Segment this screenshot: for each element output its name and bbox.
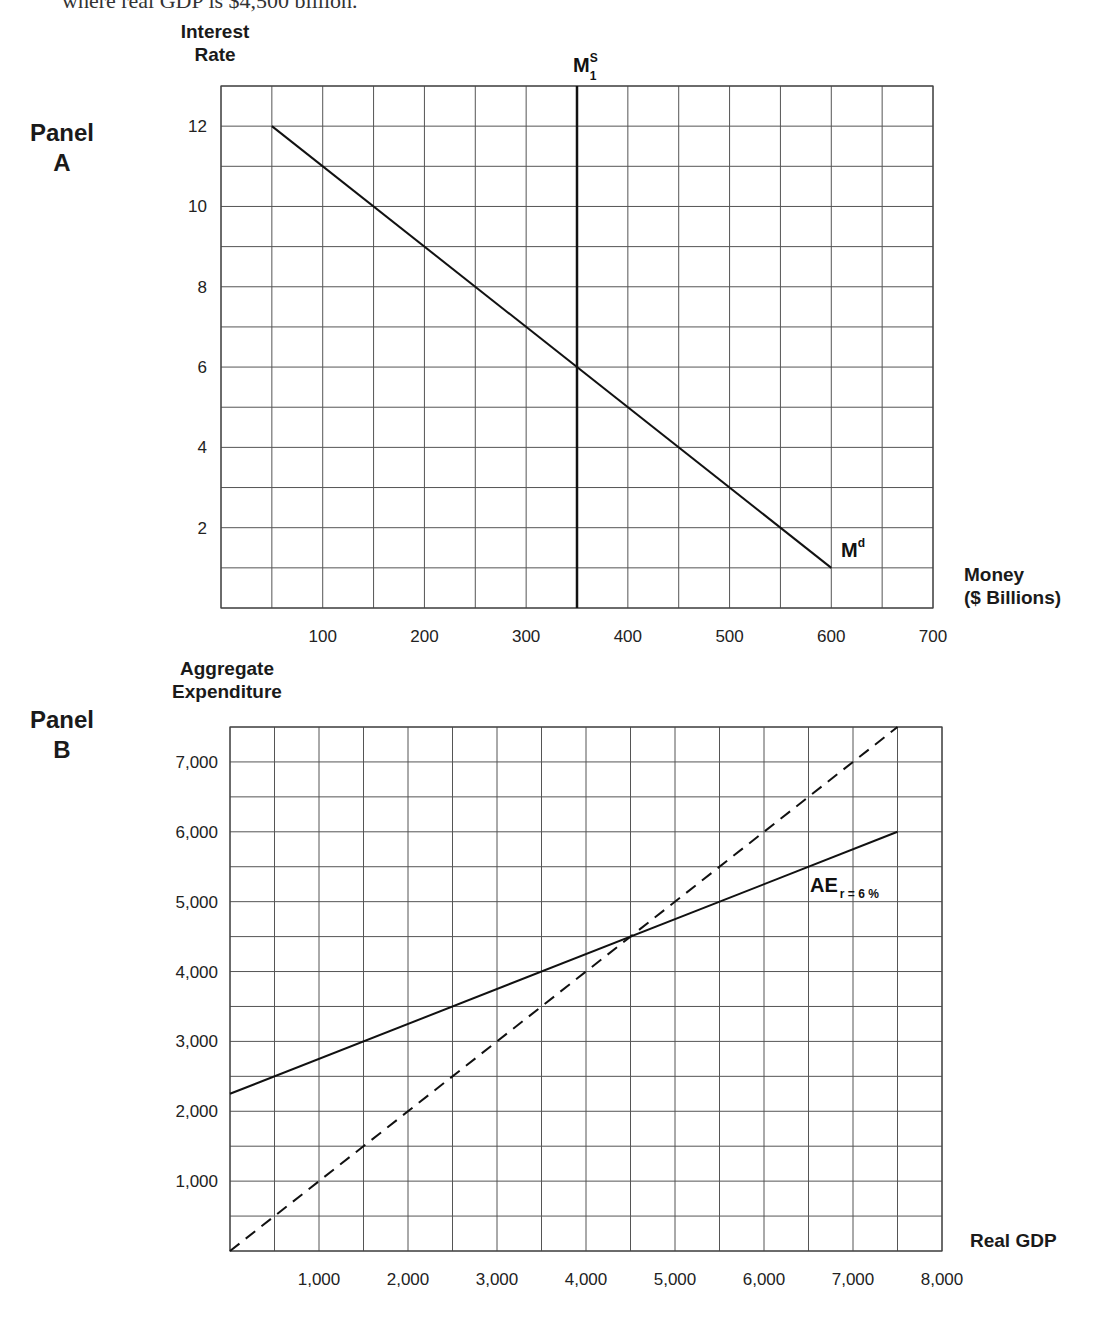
y-tick-label: 1,000 bbox=[175, 1172, 218, 1191]
y-tick-label: 4,000 bbox=[175, 963, 218, 982]
y-tick-label: 7,000 bbox=[175, 753, 218, 772]
series-45-degree-line bbox=[230, 727, 898, 1251]
x-tick-label: 500 bbox=[715, 627, 743, 646]
x-tick-label: 6,000 bbox=[743, 1270, 786, 1289]
x-tick-label: 400 bbox=[614, 627, 642, 646]
y-tick-label: 4 bbox=[198, 438, 207, 457]
money-supply-label: MS1 bbox=[573, 51, 598, 83]
x-tick-label: 7,000 bbox=[832, 1270, 875, 1289]
y-tick-label: 3,000 bbox=[175, 1032, 218, 1051]
series-ae-r-6- bbox=[230, 832, 898, 1094]
y-tick-label: 2 bbox=[198, 519, 207, 538]
panel-a-chart: 10020030040050060070024681012MS1Md bbox=[188, 51, 947, 646]
y-tick-label: 5,000 bbox=[175, 893, 218, 912]
y-tick-label: 8 bbox=[198, 278, 207, 297]
y-tick-label: 6,000 bbox=[175, 823, 218, 842]
x-tick-label: 4,000 bbox=[565, 1270, 608, 1289]
series-md bbox=[272, 126, 831, 568]
y-tick-label: 12 bbox=[188, 117, 207, 136]
x-tick-label: 2,000 bbox=[387, 1270, 430, 1289]
panel-b-chart: 1,0002,0003,0004,0005,0006,0007,0008,000… bbox=[175, 727, 963, 1289]
x-tick-label: 5,000 bbox=[654, 1270, 697, 1289]
x-tick-label: 700 bbox=[919, 627, 947, 646]
x-tick-label: 200 bbox=[410, 627, 438, 646]
y-tick-label: 10 bbox=[188, 197, 207, 216]
x-tick-label: 1,000 bbox=[298, 1270, 341, 1289]
x-tick-label: 100 bbox=[309, 627, 337, 646]
aggregate-expenditure-label: AEr = 6 % bbox=[810, 874, 879, 901]
charts-canvas: 10020030040050060070024681012MS1Md 1,000… bbox=[0, 0, 1109, 1318]
x-tick-label: 3,000 bbox=[476, 1270, 519, 1289]
y-tick-label: 6 bbox=[198, 358, 207, 377]
y-tick-label: 2,000 bbox=[175, 1102, 218, 1121]
x-tick-label: 8,000 bbox=[921, 1270, 964, 1289]
x-tick-label: 600 bbox=[817, 627, 845, 646]
money-demand-label: Md bbox=[841, 536, 865, 561]
x-tick-label: 300 bbox=[512, 627, 540, 646]
